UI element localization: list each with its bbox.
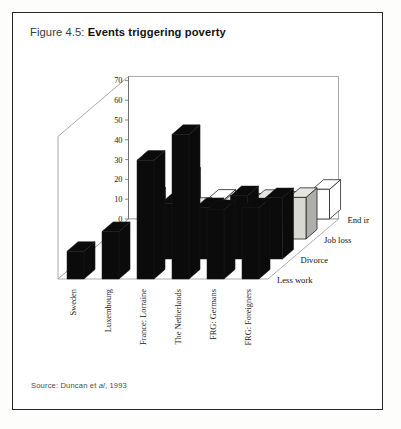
source-suffix: , 1993 (105, 381, 127, 390)
y-tick-label: 20 (114, 175, 122, 184)
category-label-frg-germans: FRG: Germans (209, 289, 218, 340)
page-title: Events triggering poverty (88, 26, 226, 38)
chart-3d-bar: 010203040506070Less workDivorceJob lossE… (14, 74, 369, 374)
y-tick-label: 40 (114, 136, 122, 145)
bar-less-work-frg-germans[interactable] (207, 200, 235, 279)
bar-less-work-the-netherlands[interactable] (172, 125, 200, 279)
source-note: Source: Duncan et al, 1993 (31, 381, 127, 390)
category-label-frg-foreigners: FRG: Foreigners (244, 289, 253, 346)
bar-less-work-luxembourg[interactable] (102, 222, 130, 279)
series-label-divorce: Divorce (301, 255, 329, 265)
y-tick-label: 60 (114, 96, 122, 105)
y-tick-label: 50 (114, 116, 122, 125)
category-label-france-lorraine: France: Lorraine (139, 289, 148, 345)
figure-page: Figure 4.5: Events triggering poverty 01… (0, 0, 401, 429)
source-prefix: Source: Duncan et (31, 381, 99, 390)
category-label-sweden: Sweden (69, 288, 78, 315)
y-tick-label: 30 (114, 156, 122, 165)
chart-canvas: 010203040506070Less workDivorceJob lossE… (14, 74, 369, 374)
series-label-less-work: Less work (277, 275, 313, 285)
category-label-luxembourg: Luxembourg (104, 288, 113, 332)
category-label-the-netherlands: The Netherlands (174, 289, 183, 345)
figure-number: Figure 4.5: (30, 26, 85, 38)
bar-less-work-france-lorraine[interactable] (137, 151, 165, 279)
figure-caption: Figure 4.5: Events triggering poverty (30, 26, 226, 38)
bar-less-work-frg-foreigners[interactable] (242, 198, 270, 279)
y-tick-label: 10 (114, 195, 122, 204)
series-label-job-loss: Job loss (324, 235, 352, 245)
y-tick-label: 70 (114, 76, 122, 85)
series-label-end-insurance: End insurance (348, 215, 370, 225)
